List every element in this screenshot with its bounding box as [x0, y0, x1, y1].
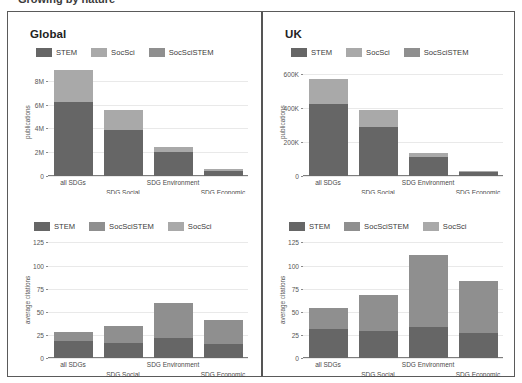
y-tick-label: 0 [40, 355, 44, 362]
bar-group[interactable] [409, 153, 448, 176]
y-tick-mark [301, 358, 303, 359]
legend-swatch-icon [289, 222, 305, 231]
bar-group[interactable] [104, 110, 143, 176]
y-tick-mark [46, 152, 48, 153]
bar-group[interactable] [309, 79, 348, 176]
bar-group[interactable] [459, 281, 498, 358]
panel-uk-citations: STEMSocSciSTEMSocSci 0255075100125averag… [263, 194, 514, 376]
legend-item[interactable]: SocSciSTEM [149, 48, 214, 57]
gridline [48, 312, 248, 313]
bar-segment[interactable] [459, 171, 498, 172]
panel-global-publications: Global STEMSocSciSocSciSTEM 02M4M6M8Mpub… [8, 12, 261, 194]
legend-item[interactable]: STEM [36, 48, 77, 57]
bar-group[interactable] [54, 70, 93, 176]
bar-segment[interactable] [409, 153, 448, 157]
bar-group[interactable] [359, 109, 398, 176]
bar-segment[interactable] [54, 341, 93, 358]
x-tick-label: SDG Economic [456, 371, 500, 378]
bar-segment[interactable] [359, 331, 398, 358]
x-tick-label: SDG Environment [402, 361, 454, 368]
y-tick-label: 0 [295, 355, 299, 362]
legend-item[interactable]: SocSci [168, 222, 212, 231]
bar-group[interactable] [309, 308, 348, 358]
bar-segment[interactable] [409, 255, 448, 326]
bar-segment[interactable] [409, 327, 448, 358]
bar-segment[interactable] [409, 157, 448, 176]
bar-segment[interactable] [104, 326, 143, 344]
y-tick-label: 200K [284, 139, 299, 146]
bar-group[interactable] [359, 295, 398, 358]
y-axis-label: average citations [279, 276, 286, 324]
bar-segment[interactable] [54, 332, 93, 341]
legend-swatch-icon [423, 222, 439, 231]
legend-item[interactable]: SocSci [423, 222, 467, 231]
x-tick-label: SDG Social [361, 371, 395, 378]
bar-segment[interactable] [459, 281, 498, 333]
x-tick-label: SDG Environment [147, 179, 199, 186]
bar-segment[interactable] [154, 147, 193, 153]
gridline [303, 74, 503, 75]
bar-group[interactable] [54, 332, 93, 358]
y-tick-mark [46, 242, 48, 243]
y-tick-label: 125 [288, 239, 299, 246]
bar-segment[interactable] [154, 303, 193, 338]
bar-segment[interactable] [204, 344, 243, 358]
y-tick-mark [46, 266, 48, 267]
plot-uk-publications: 0200K400K600Kpublicationsall SDGsSDG Soc… [303, 64, 503, 176]
bar-segment[interactable] [54, 102, 93, 176]
bar-group[interactable] [204, 169, 243, 176]
y-axis-label: average citations [24, 276, 31, 324]
gridline [48, 176, 248, 177]
bar-group[interactable] [409, 255, 448, 358]
bar-segment[interactable] [104, 110, 143, 130]
bar-segment[interactable] [359, 110, 398, 128]
legend-item[interactable]: STEM [291, 48, 332, 57]
bar-segment[interactable] [359, 127, 398, 176]
bar-group[interactable] [459, 171, 498, 176]
legend-swatch-icon [149, 48, 165, 57]
y-tick-label: 100 [288, 262, 299, 269]
bar-group[interactable] [154, 303, 193, 358]
legend-swatch-icon [344, 222, 360, 231]
bar-segment[interactable] [154, 152, 193, 176]
legend-item[interactable]: SocSciSTEM [344, 222, 409, 231]
y-tick-label: 75 [37, 285, 44, 292]
y-tick-mark [301, 335, 303, 336]
bar-segment[interactable] [154, 338, 193, 358]
bar-segment[interactable] [204, 169, 243, 171]
legend-item[interactable]: STEM [289, 222, 330, 231]
panel-title-global: Global [30, 28, 66, 40]
bar-segment[interactable] [204, 171, 243, 176]
gridline [303, 358, 503, 359]
bar-segment[interactable] [309, 329, 348, 358]
legend-item[interactable]: STEM [34, 222, 75, 231]
x-tick-label: SDG Economic [201, 371, 245, 378]
legend-item[interactable]: SocSciSTEM [89, 222, 154, 231]
bar-segment[interactable] [459, 333, 498, 358]
bar-segment[interactable] [359, 295, 398, 331]
bar-segment[interactable] [204, 320, 243, 344]
gridline [303, 242, 503, 243]
bar-segment[interactable] [309, 79, 348, 104]
x-tick-label: all SDGs [315, 179, 341, 186]
bar-segment[interactable] [104, 130, 143, 176]
bar-group[interactable] [104, 326, 143, 358]
y-tick-label: 8M [35, 77, 44, 84]
plot-global-publications: 02M4M6M8Mpublicationsall SDGsSDG SocialS… [48, 64, 248, 176]
legend-swatch-icon [291, 48, 307, 57]
legend-item[interactable]: SocSci [346, 48, 390, 57]
clipped-title: Growing by nature [18, 0, 115, 5]
bar-segment[interactable] [459, 172, 498, 176]
y-tick-label: 0 [40, 173, 44, 180]
legend-item[interactable]: SocSci [91, 48, 135, 57]
gridline [48, 358, 248, 359]
legend-item[interactable]: SocSciSTEM [404, 48, 469, 57]
bar-segment[interactable] [309, 308, 348, 329]
y-axis-label: publications [279, 105, 286, 139]
bar-segment[interactable] [309, 104, 348, 176]
y-axis-label: publications [24, 105, 31, 139]
bar-group[interactable] [154, 147, 193, 176]
bar-segment[interactable] [54, 70, 93, 102]
bar-group[interactable] [204, 320, 243, 358]
bar-segment[interactable] [104, 343, 143, 358]
